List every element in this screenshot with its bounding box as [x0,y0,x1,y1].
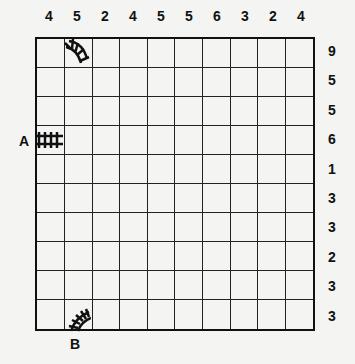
grid-cell[interactable] [37,242,65,271]
grid-cell[interactable] [37,97,65,126]
grid-cell[interactable] [175,242,203,271]
grid-cell[interactable] [65,126,93,155]
grid-cell[interactable] [147,271,175,300]
grid-cell[interactable] [285,97,313,126]
grid-cell[interactable] [37,68,65,97]
grid-cell[interactable] [258,126,286,155]
grid-cell[interactable] [203,271,231,300]
grid-cell[interactable] [230,39,258,68]
grid-cell[interactable] [230,271,258,300]
grid-cell[interactable] [203,155,231,184]
grid-cell[interactable] [258,213,286,242]
column-clue: 5 [63,8,91,24]
grid-cell[interactable] [175,271,203,300]
grid-cell[interactable] [37,213,65,242]
grid-cell[interactable] [120,242,148,271]
grid-cell[interactable] [65,184,93,213]
grid-cell[interactable] [120,184,148,213]
grid-cell[interactable] [92,97,120,126]
grid-cell[interactable] [92,271,120,300]
grid-cell[interactable] [230,242,258,271]
grid-cell[interactable] [175,39,203,68]
grid-cell[interactable] [92,184,120,213]
grid-cell[interactable] [203,97,231,126]
grid-cell[interactable] [147,242,175,271]
grid-cell[interactable] [230,97,258,126]
grid-cell[interactable] [230,126,258,155]
straight-track-icon [35,125,63,155]
grid-cell[interactable] [258,300,286,329]
grid-cell[interactable] [147,184,175,213]
grid-cell[interactable] [230,155,258,184]
grid-cell[interactable] [120,213,148,242]
grid-cell[interactable] [258,271,286,300]
grid-cell[interactable] [147,126,175,155]
grid-cell[interactable] [147,155,175,184]
grid-cell[interactable] [285,300,313,329]
grid-cell[interactable] [147,213,175,242]
grid-cell[interactable] [147,39,175,68]
grid-cell[interactable] [92,242,120,271]
grid-cell[interactable] [65,242,93,271]
grid-cell[interactable] [147,300,175,329]
grid-cell[interactable] [147,97,175,126]
grid-cell[interactable] [37,271,65,300]
grid-cell[interactable] [285,39,313,68]
grid-cell[interactable] [37,39,65,68]
grid-cell[interactable] [230,300,258,329]
grid-cell[interactable] [37,184,65,213]
grid-cell[interactable] [258,68,286,97]
grid-cell[interactable] [230,68,258,97]
grid-cell[interactable] [175,184,203,213]
grid-cell[interactable] [285,126,313,155]
grid-cell[interactable] [175,155,203,184]
grid-cell[interactable] [120,97,148,126]
grid-cell[interactable] [285,155,313,184]
grid-cell[interactable] [175,68,203,97]
grid-cell[interactable] [120,126,148,155]
grid-cell[interactable] [147,68,175,97]
grid-cell[interactable] [203,242,231,271]
grid-cell[interactable] [285,271,313,300]
grid-cell[interactable] [65,68,93,97]
grid-cell[interactable] [175,126,203,155]
grid-cell[interactable] [92,300,120,329]
grid-cell[interactable] [65,155,93,184]
grid-cell[interactable] [285,68,313,97]
grid-cell[interactable] [285,213,313,242]
grid-cell[interactable] [258,39,286,68]
grid-cell[interactable] [258,242,286,271]
grid-cell[interactable] [230,213,258,242]
grid-cell[interactable] [285,184,313,213]
grid-cell[interactable] [285,242,313,271]
grid-cell[interactable] [175,300,203,329]
grid-cell[interactable] [203,184,231,213]
grid-cell[interactable] [203,213,231,242]
grid-cell[interactable] [175,213,203,242]
grid-cell[interactable] [175,97,203,126]
grid-cell[interactable] [65,213,93,242]
grid-cell[interactable] [258,155,286,184]
grid-cell[interactable] [120,300,148,329]
grid-cell[interactable] [37,155,65,184]
grid-cell[interactable] [92,155,120,184]
grid-cell[interactable] [120,39,148,68]
grid-cell[interactable] [203,300,231,329]
grid-cell[interactable] [65,271,93,300]
grid-cell[interactable] [203,39,231,68]
grid-cell[interactable] [92,39,120,68]
grid-cell[interactable] [258,97,286,126]
grid-cell[interactable] [230,184,258,213]
grid-cell[interactable] [203,126,231,155]
grid-cell[interactable] [92,213,120,242]
grid-cell[interactable] [92,68,120,97]
grid-cell[interactable] [92,126,120,155]
grid-cell[interactable] [258,184,286,213]
grid-cell[interactable] [203,68,231,97]
grid-cell[interactable] [120,271,148,300]
grid-cell[interactable] [37,300,65,329]
grid-cell[interactable] [65,97,93,126]
grid-cell[interactable] [120,68,148,97]
grid-cell[interactable] [120,155,148,184]
puzzle-grid[interactable] [35,37,315,331]
